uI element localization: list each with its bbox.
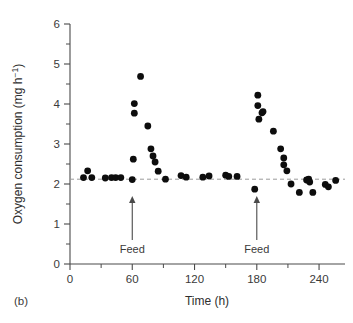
data-point: [150, 153, 157, 160]
x-axis-title: Time (h): [185, 294, 229, 308]
y-axis-title-superscript: −1: [10, 68, 20, 78]
y-axis-title-main: Oxygen consumption (mg h: [11, 77, 25, 224]
y-tick-label: 4: [54, 98, 61, 110]
data-point: [254, 92, 261, 99]
x-axis-ticks: [70, 264, 319, 270]
data-point: [234, 173, 241, 180]
data-point: [80, 174, 87, 181]
data-point: [144, 123, 151, 130]
data-point: [152, 159, 159, 166]
panel-label: (b): [14, 295, 28, 307]
data-point: [306, 179, 313, 186]
feed-annotation-label: Feed: [244, 243, 269, 255]
y-tick-label: 0: [54, 258, 60, 270]
data-point: [309, 189, 316, 196]
data-point: [260, 108, 267, 115]
data-point: [270, 128, 277, 135]
data-point: [199, 174, 206, 181]
figure-panel-b: 0123456 060120180240 FeedFeed Time (h) O…: [0, 0, 353, 323]
data-point: [137, 73, 144, 80]
data-point: [255, 116, 262, 123]
data-point: [225, 173, 232, 180]
y-tick-label: 1: [54, 218, 60, 230]
oxygen-consumption-scatter-chart: 0123456 060120180240 FeedFeed Time (h) O…: [0, 0, 353, 323]
data-point: [280, 161, 287, 168]
axes: [70, 24, 345, 264]
data-point: [183, 174, 190, 181]
data-point: [325, 183, 332, 190]
data-point: [129, 176, 136, 183]
data-point: [155, 168, 162, 175]
data-point: [280, 155, 287, 162]
data-point: [84, 167, 91, 174]
data-point: [283, 167, 290, 174]
data-point: [332, 177, 339, 184]
data-point: [148, 145, 155, 152]
data-point: [117, 174, 124, 181]
y-axis-tick-labels: 0123456: [54, 18, 61, 270]
y-tick-label: 3: [54, 138, 60, 150]
data-point: [88, 174, 95, 181]
data-point: [296, 189, 303, 196]
data-point: [131, 100, 138, 107]
y-axis-title: Oxygen consumption (mg h−1): [10, 64, 25, 224]
feed-arrow-head: [129, 196, 135, 203]
data-point: [206, 173, 213, 180]
data-point: [277, 145, 284, 152]
feed-arrow-head: [254, 196, 260, 203]
data-point: [102, 175, 109, 182]
x-tick-label: 180: [247, 273, 266, 285]
data-point: [162, 176, 169, 183]
y-axis-title-group: Oxygen consumption (mg h−1): [10, 64, 25, 224]
feed-annotation-label: Feed: [120, 243, 145, 255]
x-axis-tick-labels: 060120180240: [67, 273, 329, 285]
data-point: [254, 102, 261, 109]
y-tick-label: 5: [54, 58, 60, 70]
y-tick-label: 2: [54, 178, 60, 190]
data-point: [130, 156, 137, 163]
x-tick-label: 60: [126, 273, 139, 285]
x-tick-label: 240: [309, 273, 328, 285]
data-point-series: [80, 73, 339, 196]
data-point: [131, 110, 138, 117]
data-point: [288, 181, 295, 188]
feed-annotations: FeedFeed: [120, 196, 270, 255]
x-tick-label: 120: [185, 273, 204, 285]
y-tick-label: 6: [54, 18, 60, 30]
y-axis-ticks: [64, 24, 70, 264]
x-tick-label: 0: [67, 273, 73, 285]
data-point: [251, 186, 258, 193]
y-axis-title-tail: ): [11, 64, 25, 68]
